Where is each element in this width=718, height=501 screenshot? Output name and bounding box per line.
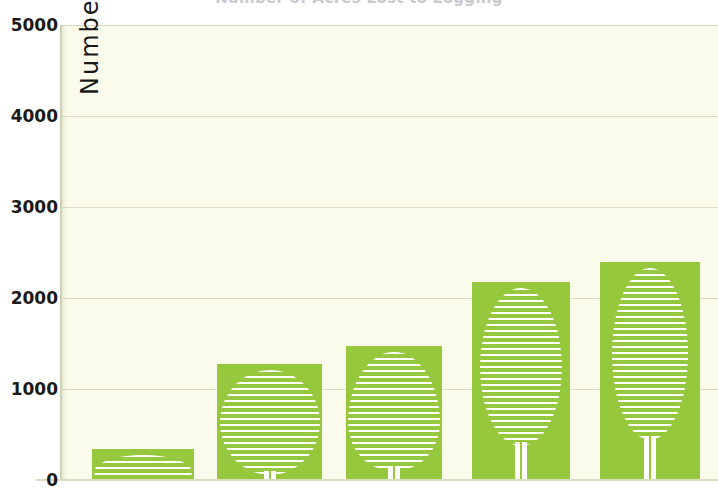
tree-motif-2	[220, 370, 320, 480]
bar-chart: Number of Acres 010002000300040005000	[0, 0, 718, 501]
y-tick-label-0: 0	[4, 472, 58, 489]
x-axis-line	[36, 479, 718, 481]
tree-canopy-icon	[612, 268, 688, 440]
gridline-4000	[62, 116, 718, 117]
gridline-3000	[62, 207, 718, 208]
gridline-5000	[62, 25, 718, 26]
y-tick-label-5000: 5000	[4, 17, 58, 34]
y-axis-title: Number of Acres	[76, 0, 104, 95]
tree-trunk-icon	[388, 466, 400, 480]
y-tick-label-2000: 2000	[4, 290, 58, 307]
bar-4	[472, 282, 570, 480]
tree-canopy-icon	[348, 352, 440, 470]
tree-trunk-icon	[515, 442, 527, 480]
plot-area	[62, 25, 718, 480]
tree-motif-3	[348, 352, 440, 480]
bar-2	[217, 364, 322, 480]
bar-5	[600, 262, 700, 480]
y-tick-label-3000: 3000	[4, 199, 58, 216]
y-tick-label-1000: 1000	[4, 381, 58, 398]
tree-canopy-icon	[94, 455, 192, 480]
tree-motif-1	[94, 455, 192, 480]
tree-motif-4	[480, 288, 562, 480]
y-tick-label-4000: 4000	[4, 108, 58, 125]
tree-canopy-icon	[480, 288, 562, 446]
bar-1	[92, 449, 194, 480]
tree-motif-5	[612, 268, 688, 480]
tree-canopy-icon	[220, 370, 320, 475]
bar-3	[346, 346, 442, 480]
tree-trunk-icon	[644, 436, 656, 480]
y-axis-line	[60, 25, 62, 481]
